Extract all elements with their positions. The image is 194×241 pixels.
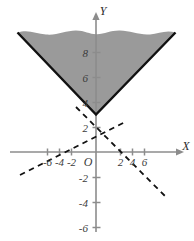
x-tick-label--2: -2 xyxy=(67,156,77,168)
x-tick-label-2: 2 xyxy=(118,156,124,168)
y-tick-label--2: -2 xyxy=(79,172,89,184)
origin-label: O xyxy=(84,155,93,169)
graph-figure: -6 -4 -2 2 4 6 8 6 4 2 -2 -4 -6 X Y O xyxy=(0,0,194,241)
y-tick-label-4: 4 xyxy=(83,97,89,109)
y-tick-label-6: 6 xyxy=(83,72,89,84)
y-tick-label-2: 2 xyxy=(83,122,89,134)
x-tick-label-6: 6 xyxy=(142,156,148,168)
y-tick-label-8: 8 xyxy=(83,47,89,59)
y-tick-label--4: -4 xyxy=(79,197,89,209)
y-axis-arrow-icon xyxy=(92,12,99,20)
x-tick-label--6: -6 xyxy=(43,156,53,168)
coordinate-plot: -6 -4 -2 2 4 6 8 6 4 2 -2 -4 -6 X Y O xyxy=(0,0,194,241)
x-tick-label--4: -4 xyxy=(55,156,65,168)
y-axis-label: Y xyxy=(100,4,108,18)
x-tick-label-4: 4 xyxy=(130,156,136,168)
x-axis-label: X xyxy=(181,139,190,153)
y-tick-label--6: -6 xyxy=(79,222,89,234)
